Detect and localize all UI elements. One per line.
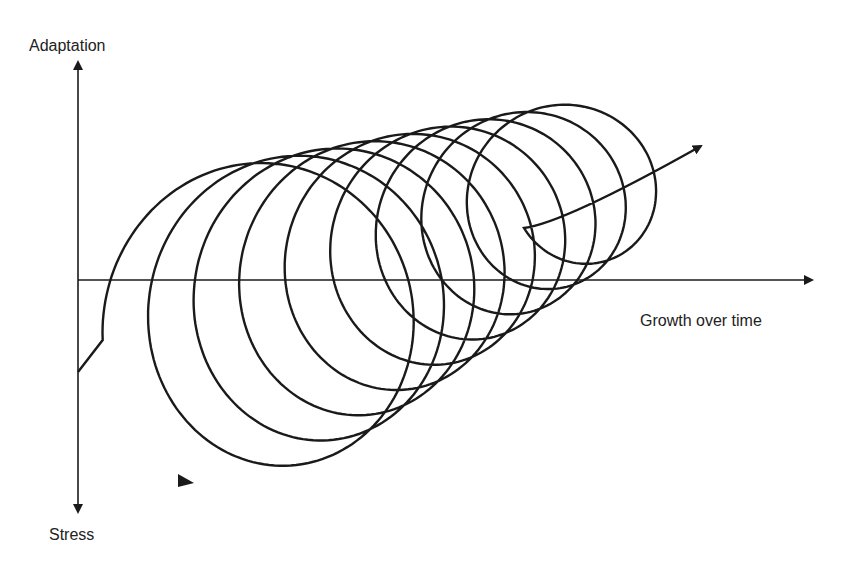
diagram-canvas [0,0,852,572]
stress-adaptation-spiral-diagram: Adaptation Stress Growth over time [0,0,852,572]
spiral-direction-arrow-icon [178,474,194,487]
growth-axis-label: Growth over time [640,312,762,330]
adaptation-axis-label: Adaptation [29,37,106,55]
growth-spiral-curve [78,105,701,466]
stress-axis-label: Stress [49,526,94,544]
